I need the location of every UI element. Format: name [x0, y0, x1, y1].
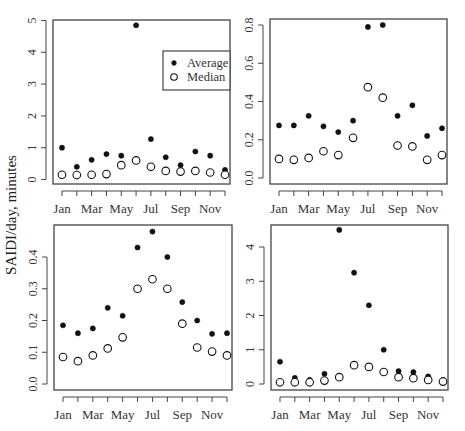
y-tick-label: 1 [243, 347, 257, 353]
legend-label: Median [187, 70, 226, 84]
point-median [321, 377, 329, 385]
y-tick-label: 1 [25, 145, 39, 151]
point-median [206, 169, 214, 177]
point-average [425, 133, 430, 138]
point-median [364, 83, 372, 91]
y-tick-label: 0.3 [26, 281, 40, 296]
point-average [350, 118, 355, 123]
y-tick-label: 0 [25, 177, 39, 183]
point-median [119, 334, 127, 342]
point-average [366, 303, 371, 308]
y-tick-label: 0.0 [26, 377, 40, 392]
panel-bottom-right: JanMarMayJulSepNov01234 [243, 225, 448, 422]
x-tick-label: May [326, 201, 350, 216]
point-average [439, 126, 444, 131]
point-average [336, 130, 341, 135]
x-tick-label: Mar [82, 407, 104, 422]
point-median [177, 168, 185, 176]
point-average [277, 359, 282, 364]
point-average [135, 245, 140, 250]
point-average [381, 347, 386, 352]
x-tick-label: Sep [388, 201, 408, 216]
point-median [117, 161, 125, 169]
point-average [195, 318, 200, 323]
point-average [133, 23, 138, 28]
legend-average-marker-icon [172, 61, 177, 66]
point-average [395, 113, 400, 118]
panel-top-right: JanMarMayJulSepNov0.00.20.40.60.8 [242, 18, 447, 217]
point-average [337, 227, 342, 232]
point-median [103, 170, 111, 178]
y-tick-label: 0.2 [26, 313, 40, 328]
point-median [365, 363, 373, 371]
x-tick-label: Nov [417, 407, 440, 422]
y-tick-label: 0.6 [242, 56, 256, 71]
point-average [105, 305, 110, 310]
point-average [119, 153, 124, 158]
point-median [134, 285, 142, 293]
point-average [351, 270, 356, 275]
panel-bottom-left: JanMarMayJulSepNov0.00.10.20.30.4 [26, 225, 232, 422]
x-tick-label: Jan [53, 201, 71, 216]
point-median [306, 378, 314, 386]
point-average [321, 124, 326, 129]
point-average [104, 151, 109, 156]
panel-top-left: JanMarMayJulSepNov012345AverageMedian [25, 18, 230, 217]
x-tick-label: Jul [360, 201, 376, 216]
x-tick-label: May [327, 407, 351, 422]
x-tick-label: Jul [361, 407, 377, 422]
point-median [221, 171, 229, 179]
point-median [276, 378, 284, 386]
y-tick-label: 0 [243, 381, 257, 387]
point-average [322, 371, 327, 376]
x-tick-label: Jan [54, 407, 72, 422]
x-tick-label: Sep [173, 407, 193, 422]
point-median [59, 353, 67, 361]
point-average [89, 157, 94, 162]
y-tick-label: 0.4 [242, 94, 256, 109]
y-tick-label: 4 [243, 244, 257, 250]
point-average [306, 113, 311, 118]
legend-median-marker-icon [171, 74, 178, 81]
y-tick-label: 0.0 [242, 171, 256, 186]
figure: JanMarMayJulSepNov012345AverageMedianJan… [0, 0, 465, 431]
point-average [380, 22, 385, 27]
x-tick-label: Jul [145, 407, 161, 422]
point-median [305, 154, 313, 162]
point-median [178, 320, 186, 328]
point-median [394, 142, 402, 150]
x-tick-label: Jan [270, 201, 288, 216]
point-median [149, 275, 157, 283]
plot-frame [54, 225, 232, 390]
point-average [209, 331, 214, 336]
point-average [410, 103, 415, 108]
point-average [178, 163, 183, 168]
point-average [74, 164, 79, 169]
point-median [73, 171, 81, 179]
x-tick-label: May [111, 407, 135, 422]
point-average [276, 123, 281, 128]
plot-frame [271, 225, 448, 390]
point-average [59, 145, 64, 150]
point-median [349, 134, 357, 142]
point-median [132, 157, 140, 165]
point-average [60, 323, 65, 328]
point-median [350, 361, 358, 369]
point-median [223, 352, 231, 360]
point-median [192, 167, 200, 175]
legend-label: Average [187, 56, 229, 70]
plot-frame [53, 20, 230, 184]
point-average [365, 24, 370, 29]
y-tick-label: 0.4 [26, 250, 40, 265]
point-average [165, 254, 170, 259]
point-average [208, 153, 213, 158]
point-median [409, 143, 417, 151]
x-tick-label: Sep [171, 201, 191, 216]
y-tick-label: 0.2 [242, 132, 256, 147]
point-median [380, 368, 388, 376]
point-median [162, 167, 170, 175]
point-median [74, 357, 82, 365]
x-tick-label: Nov [199, 201, 222, 216]
point-median [193, 344, 201, 352]
point-median [423, 156, 431, 164]
